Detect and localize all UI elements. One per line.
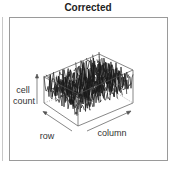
z-axis-label-line2: count xyxy=(13,96,36,106)
row-axis-label: row xyxy=(40,131,55,141)
column-arrow-head-icon xyxy=(127,111,132,115)
z-arrow-head-icon xyxy=(36,74,39,78)
column-axis-label: column xyxy=(97,128,126,138)
row-axis-arrow xyxy=(45,113,72,131)
perspective-plot: cell count row column xyxy=(0,0,176,183)
z-axis-label-line1: cell xyxy=(16,85,30,95)
